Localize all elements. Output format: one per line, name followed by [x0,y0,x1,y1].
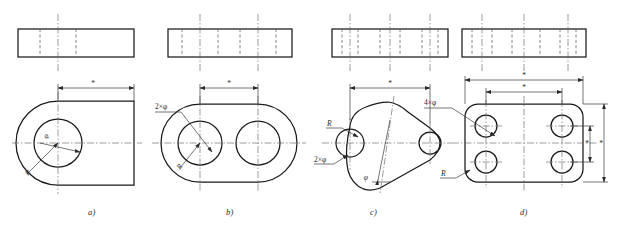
part-d-top-view: * * * * [424,71,608,192]
part-c-front-view [332,14,448,72]
part-d-caption: d) [520,207,528,217]
part-a-annotation-diameter: φ [40,132,80,152]
part-d-dimension-hole-pitch-y: * [570,126,594,162]
part-b-hole-diameter-label: 2×φ [155,102,168,111]
part-c-dim-label: * [388,79,392,88]
part-d-dim-hole-pitch-y-label: * [585,139,589,148]
part-a-radius-label: R [22,168,33,178]
part-c-annotation-hole-diameter: 2×φ [314,155,348,164]
part-b-annotation-radius: R [174,143,200,172]
part-d-radius-label: R [440,169,446,178]
engineering-drawing-figure: .obj{fill:none;stroke:#1a1a1a;stroke-wid… [0,0,630,240]
part-a: * φ R [12,14,142,194]
part-a-caption: a) [88,207,96,217]
part-b-front-view [168,14,292,72]
part-d-dim-overall-height-label: * [599,139,603,148]
part-c-dimension-center-distance: * [350,79,430,124]
part-d-dim-overall-width-label: * [522,71,526,80]
part-a-annotation-radius: R [22,143,58,178]
part-a-dim-width-label: * [91,79,95,88]
part-a-diameter-label: φ [41,132,51,140]
part-d-front-view [462,14,586,72]
part-d-dim-hole-pitch-x-label: * [522,83,526,92]
part-b-top-view: * 2×φ R [152,79,306,192]
part-d: * * * * [424,14,608,192]
drawing-canvas: .obj{fill:none;stroke:#1a1a1a;stroke-wid… [0,0,630,240]
part-b-annotation-hole-diameter: 2×φ [155,102,212,152]
part-b-dimension-center-distance: * [200,79,258,104]
part-c-radius-label: R [326,119,332,128]
part-d-hole-diameter-label: 4×φ [424,98,437,107]
part-b-radius-label: R [174,162,185,172]
part-b-dim-label: * [227,79,231,88]
part-c-caption: c) [370,207,377,217]
part-c-diameter-label: φ [364,173,368,182]
part-c-annotation-radius: R [326,119,358,137]
part-b-caption: b) [226,207,234,217]
part-a-top-view: * φ R [12,79,142,194]
part-c-top-view: * R 2×φ φ [314,79,452,194]
part-a-dimension-width: * [58,79,134,101]
part-b: * 2×φ R [152,14,306,192]
part-c-hole-diameter-label: 2×φ [314,155,327,164]
part-a-front-view [18,14,134,72]
